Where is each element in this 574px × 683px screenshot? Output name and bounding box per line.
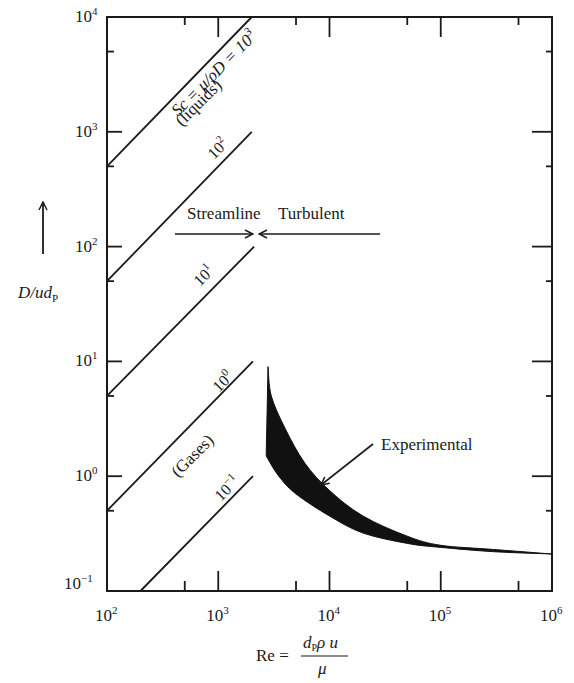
sc-main-label: Sc = μ/ρD = 103 [165,25,260,120]
x-tick-label: 105 [429,604,452,625]
y-tick-label: 100 [75,464,98,485]
x-tick-label: 102 [95,604,118,625]
y-tick-label: 101 [75,349,98,370]
x-tick-label: 103 [206,604,229,625]
x-axis-label: Re = dPρ u μ [256,633,348,678]
y-tick-label: 10−1 [64,572,93,593]
gases-label: (Gases) [167,431,217,481]
experimental-band [266,367,552,554]
sc1-label: 101 [188,260,217,289]
sc-line [140,476,252,591]
experimental-label: Experimental [381,435,473,454]
streamline-label: Streamline [187,204,261,223]
svg-text:dPρ u: dPρ u [303,633,338,653]
scm1-label: 10−1 [209,470,243,504]
turbulent-label: Turbulent [278,204,345,223]
y-tick-label: 104 [75,5,98,26]
y-tick-label: 103 [75,120,98,141]
y-tick-label: 102 [75,235,98,256]
x-tick-label: 106 [540,604,563,625]
x-tick-label: 104 [318,604,341,625]
chart: 10210310410510610−1100101102103104 Sc = … [0,0,574,683]
axis-tick-labels: 10210310410510610−1100101102103104 [64,5,563,625]
experimental-arrow [321,444,373,485]
sc-line [107,17,252,166]
sc0-label: 100 [207,365,237,395]
sc-line [107,247,254,396]
svg-text:Re =: Re = [256,646,289,665]
svg-text:μ: μ [317,659,327,678]
y-axis-label: D/udP [17,283,58,304]
